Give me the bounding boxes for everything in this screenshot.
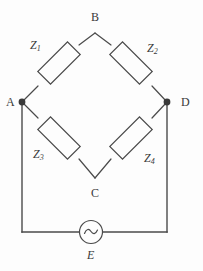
impedance-label-z1-subscript: 1 <box>37 44 41 53</box>
impedance-z1-body <box>38 42 80 84</box>
branch-a-c <box>22 102 95 178</box>
node-label-b: B <box>91 11 99 23</box>
wire-b-to-z2 <box>95 33 111 45</box>
impedance-label-z1-symbol: Z <box>30 38 37 52</box>
impedance-label-z2-subscript: 2 <box>154 47 158 56</box>
impedance-label-z4-subscript: 4 <box>151 157 155 166</box>
impedance-label-z2: Z2 <box>147 42 158 54</box>
impedance-label-z1: Z1 <box>30 39 41 51</box>
junction-dot-a <box>19 99 26 106</box>
impedance-z3-body <box>38 117 80 159</box>
impedance-label-z4-symbol: Z <box>144 151 151 165</box>
impedance-label-z4: Z4 <box>144 152 155 164</box>
junction-dot-d <box>164 99 171 106</box>
impedance-label-z2-symbol: Z <box>147 41 154 55</box>
source-label-e: E <box>87 249 94 261</box>
node-label-d: D <box>181 96 190 108</box>
node-label-c: C <box>91 187 99 199</box>
supply-loop <box>22 102 167 232</box>
circuit-diagram: B A D C Z1 Z2 Z3 Z4 E <box>0 0 203 271</box>
impedance-label-z3: Z3 <box>33 148 44 160</box>
wire-z1-to-b <box>79 33 95 45</box>
wire-z3-to-c <box>79 159 95 178</box>
ac-source-symbol <box>80 221 103 244</box>
impedance-z2-body <box>110 42 152 84</box>
impedance-label-z3-symbol: Z <box>33 147 40 161</box>
wire-c-to-z4 <box>95 159 111 178</box>
impedance-label-z3-subscript: 3 <box>40 153 44 162</box>
node-label-a: A <box>6 96 15 108</box>
branch-c-d <box>95 102 167 178</box>
